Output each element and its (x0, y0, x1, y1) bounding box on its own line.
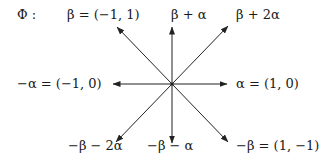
label-minus-alpha: −α = (−1, 0) (17, 77, 102, 90)
label-minus-beta-minus-2alpha: −β − 2α (68, 139, 123, 152)
label-beta-plus-alpha: β + α (171, 8, 206, 21)
label-beta: β = (−1, 1) (67, 8, 140, 21)
label-minus-beta: −β = (1, −1) (236, 139, 319, 152)
label-minus-beta-minus-alpha: −β − α (147, 139, 193, 152)
phi-title: Φ : (17, 8, 36, 21)
arrow-beta (117, 27, 172, 84)
arrow-minus-beta (172, 84, 228, 142)
label-beta-plus-2alpha: β + 2α (236, 8, 280, 21)
arrow-minus-beta-minus-2alpha (116, 84, 172, 142)
arrow-beta-plus-2alpha (172, 26, 228, 84)
root-system-diagram: Φ : β = (−1, 1) β + α β + 2α −α = (−1, 0… (0, 0, 327, 162)
origin-point (170, 82, 173, 85)
label-alpha: α = (1, 0) (236, 77, 299, 90)
